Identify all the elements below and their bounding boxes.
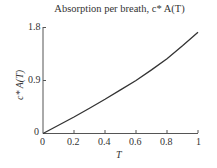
x-tick-label: 0 [40,137,45,147]
x-tick-label: 0.4 [98,137,111,147]
x-tick-label: 0.2 [67,137,80,147]
data-line [43,32,198,133]
x-axis-label: T [116,150,122,160]
y-tick-label: 0.9 [28,75,41,85]
x-tick-label: 0.6 [129,137,142,147]
y-axis-label: c* A(T) [15,65,25,105]
y-tick-label: 1.8 [28,22,41,32]
y-tick-label: 0 [34,127,39,137]
x-tick-label: 0.8 [160,137,173,147]
x-tick-label: 1 [196,137,201,147]
